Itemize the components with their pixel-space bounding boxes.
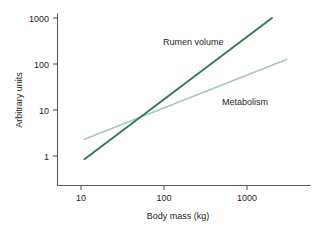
y-tick-label-1000: 1000 bbox=[29, 14, 49, 24]
y-tick-label-100: 100 bbox=[34, 60, 49, 70]
x-tick-label-100: 100 bbox=[156, 193, 171, 203]
metabolism-label: Metabolism bbox=[222, 97, 268, 107]
rumen-volume-label: Rumen volume bbox=[163, 37, 224, 47]
y-axis-title: Arbitrary units bbox=[14, 72, 24, 128]
x-tick-label-1000: 1000 bbox=[237, 193, 257, 203]
y-tick-label-10: 10 bbox=[39, 106, 49, 116]
log-log-line-chart: 1000 100 10 1 10 100 1000 Body mass (kg)… bbox=[0, 0, 317, 228]
chart-page: 1000 100 10 1 10 100 1000 Body mass (kg)… bbox=[0, 0, 317, 228]
y-tick-label-1: 1 bbox=[44, 152, 49, 162]
x-tick-label-10: 10 bbox=[76, 193, 86, 203]
x-axis-title: Body mass (kg) bbox=[147, 211, 210, 221]
